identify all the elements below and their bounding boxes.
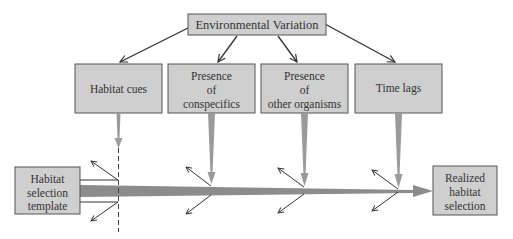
arrow-to-other-organisms — [278, 36, 297, 62]
factor-label-line: Presence — [191, 70, 232, 82]
factor-box-time-lags: Time lags — [355, 64, 442, 113]
divergence-arrow-up — [91, 161, 118, 180]
environmental-variation-label: Environmental Variation — [195, 18, 319, 32]
habitat-cues-influence-arrow — [115, 113, 123, 148]
habitat-selection-template-node: Habitat selection template — [15, 167, 80, 214]
divergence-arrow-down — [186, 195, 211, 214]
divergence-arrow-down — [278, 194, 304, 213]
divergence-arrow-down — [91, 202, 118, 221]
factor-label-line: conspecifics — [183, 98, 240, 111]
template-label-line: selection — [27, 187, 68, 199]
divergence-arrow-up — [186, 167, 211, 186]
divergence-arrow-up — [278, 168, 304, 187]
template-label-line: template — [28, 200, 68, 213]
environmental-variation-node: Environmental Variation — [188, 14, 326, 35]
factor-box-habitat-cues: Habitat cues — [75, 64, 162, 113]
template-label-line: Habitat — [31, 173, 66, 185]
factor-box-other-organisms: Presence of other organisms — [261, 64, 348, 113]
factor-label: Time lags — [376, 82, 422, 95]
arrow-to-habitat-cues — [120, 26, 192, 62]
factor-label-line: other organisms — [268, 98, 342, 111]
time-lags-influence-arrow — [395, 113, 403, 188]
main-selection-arrow — [80, 185, 433, 197]
realized-habitat-selection-node: Realized habitat selection — [433, 166, 497, 215]
divergence-arrow-down — [372, 192, 398, 211]
factor-label-line: of — [300, 84, 310, 96]
habitat-selection-diagram: Environmental Variation Habitat cues Pre… — [0, 0, 513, 239]
factor-label-line: of — [207, 84, 217, 96]
factor-label: Habitat cues — [90, 83, 148, 95]
factor-box-conspecifics: Presence of conspecifics — [168, 64, 255, 113]
realized-label-line: habitat — [449, 186, 481, 198]
factor-influence-arrows — [115, 113, 403, 188]
other-organisms-influence-arrow — [301, 113, 309, 186]
divergence-arrow-up — [372, 170, 398, 189]
arrow-to-time-lags — [325, 24, 395, 62]
realized-label-line: selection — [445, 200, 486, 212]
factor-label-line: Presence — [284, 70, 325, 82]
realized-label-line: Realized — [445, 172, 485, 184]
arrow-to-conspecifics — [218, 36, 237, 62]
conspecifics-influence-arrow — [208, 113, 216, 184]
